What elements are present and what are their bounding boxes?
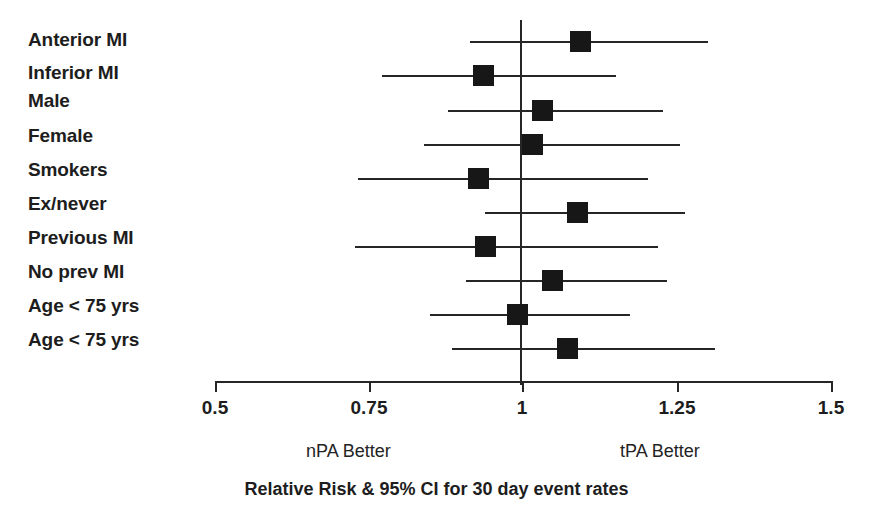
ci-line [358,178,648,180]
row-label-age-75-b: Age < 75 yrs [28,330,139,349]
forest-plot: Anterior MI Inferior MI Male Female Smok… [0,0,873,528]
ci-line [424,144,680,146]
axis-tick-1 [522,381,524,392]
axis-tick-1-25 [677,381,679,392]
chart-title: Relative Risk & 95% CI for 30 day event … [0,480,873,498]
row-label-female: Female [28,126,93,145]
row-label-age-75-a: Age < 75 yrs [28,296,139,315]
axis-tick-1-5 [831,381,833,392]
point-estimate-marker [532,100,553,121]
point-estimate-marker [567,202,588,223]
row-label-male: Male [28,91,70,110]
axis-baseline [215,381,833,383]
point-estimate-marker [507,304,528,325]
annotation-tpa-better: tPA Better [620,442,700,460]
tick-label-0-5: 0.5 [185,398,245,417]
point-estimate-marker [473,65,494,86]
ci-line [430,314,630,316]
row-label-inferior-mi: Inferior MI [28,63,119,82]
point-estimate-marker [475,236,496,257]
row-label-no-prev-mi: No prev MI [28,262,124,281]
row-label-ex-never: Ex/never [28,194,106,213]
tick-label-1-25: 1.25 [647,398,707,417]
row-label-previous-mi: Previous MI [28,228,134,247]
tick-label-1: 1 [492,398,552,417]
tick-label-0-75: 0.75 [339,398,399,417]
ci-line [382,75,616,77]
tick-label-1-5: 1.5 [801,398,861,417]
axis-tick-0-5 [215,381,217,392]
ci-line [466,280,667,282]
ci-line [448,110,663,112]
ci-line [452,348,715,350]
ci-line [355,246,658,248]
axis-tick-0-75 [369,381,371,392]
point-estimate-marker [557,338,578,359]
annotation-npa-better: nPA Better [306,442,391,460]
point-estimate-marker [468,168,489,189]
point-estimate-marker [542,270,563,291]
row-label-anterior-mi: Anterior MI [28,30,127,49]
row-label-smokers: Smokers [28,160,108,179]
point-estimate-marker [570,31,591,52]
point-estimate-marker [522,134,543,155]
